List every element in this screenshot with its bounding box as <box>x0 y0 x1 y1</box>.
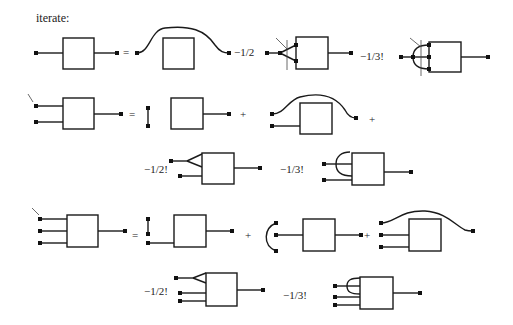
row5-term1-graph <box>174 273 265 306</box>
row1-term2-graph <box>265 37 353 70</box>
row4-term3-graph <box>379 211 475 251</box>
row4-term1-graph <box>146 215 234 247</box>
iteration-diagram <box>0 0 513 325</box>
arrow-marker <box>28 94 33 102</box>
row4-lhs-graph <box>32 208 127 247</box>
arrow-marker <box>276 38 287 49</box>
row5-term2-graph <box>333 277 422 309</box>
row2-term2-graph <box>270 95 358 134</box>
row4-term2-graph <box>266 219 363 253</box>
arrow-marker <box>32 208 39 215</box>
row3-term1-graph <box>169 153 262 184</box>
arrow-marker <box>410 38 421 47</box>
row2-term1-graph <box>146 98 231 129</box>
row3-term2-graph <box>322 152 413 185</box>
row1-term1-graph <box>135 27 231 69</box>
row2-lhs-graph <box>28 94 123 129</box>
row1-term3-graph <box>399 38 490 76</box>
row1-lhs-graph <box>34 38 119 69</box>
